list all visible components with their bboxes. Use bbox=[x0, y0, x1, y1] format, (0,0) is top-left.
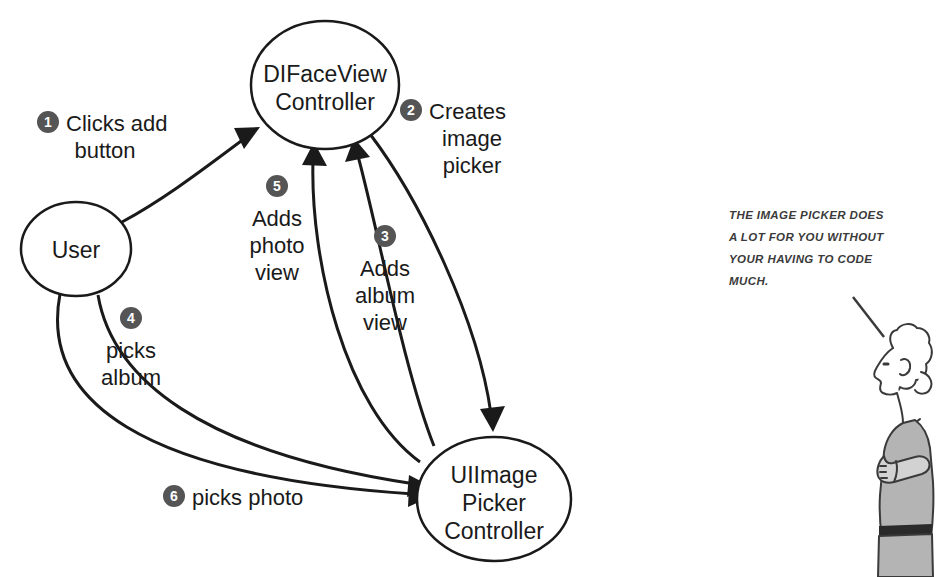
arrow-2-head bbox=[480, 406, 505, 432]
step-6: 6 picks photo bbox=[163, 485, 303, 510]
step-6-badge-number: 6 bbox=[170, 488, 178, 504]
diagram-canvas: User DIFaceView Controller UIImage Picke… bbox=[0, 0, 951, 577]
node-uiimagepickercontroller-label-line2: Picker bbox=[462, 490, 526, 516]
step-5-label-line3: view bbox=[255, 260, 299, 285]
caption-leader-line bbox=[853, 297, 884, 337]
caption-line-2: A LOT FOR YOU WITHOUT bbox=[728, 231, 884, 243]
step-4-label-line2: album bbox=[101, 365, 161, 390]
person-figure bbox=[874, 324, 933, 577]
figure-trousers bbox=[878, 534, 933, 577]
step-3-label-line2: album bbox=[355, 283, 415, 308]
step-6-label-line1: picks photo bbox=[192, 485, 303, 510]
step-5-badge-number: 5 bbox=[273, 178, 281, 194]
step-5-label-line1: Adds bbox=[252, 206, 302, 231]
caption-line-3: YOUR HAVING TO CODE bbox=[729, 253, 872, 265]
step-1-badge-number: 1 bbox=[44, 114, 52, 130]
step-1: 1 Clicks add button bbox=[37, 111, 167, 163]
step-1-label-line2: button bbox=[74, 138, 135, 163]
node-user[interactable]: User bbox=[21, 202, 131, 296]
step-3-label-line3: view bbox=[363, 310, 407, 335]
node-uiimagepickercontroller-label-line1: UIImage bbox=[451, 462, 538, 488]
step-2-badge-number: 2 bbox=[407, 102, 415, 118]
step-layer: 1 Clicks add button 2 Creates image pick… bbox=[37, 99, 506, 510]
node-user-label: User bbox=[52, 237, 101, 263]
step-2-label-line2: image bbox=[442, 126, 502, 151]
step-2-label-line3: picker bbox=[443, 153, 502, 178]
step-4: 4 picks album bbox=[101, 307, 161, 390]
caption-line-1: THE IMAGE PICKER DOES bbox=[729, 209, 884, 221]
node-difaceviewcontroller-label-line1: DIFaceView bbox=[263, 61, 387, 87]
node-difaceviewcontroller[interactable]: DIFaceView Controller bbox=[251, 21, 399, 149]
step-5-label-line2: photo bbox=[249, 233, 304, 258]
step-5: 5 Adds photo view bbox=[249, 175, 304, 285]
step-2: 2 Creates image picker bbox=[400, 99, 506, 178]
arrow-6-user-to-picker bbox=[58, 294, 414, 494]
step-4-label-line1: picks bbox=[106, 338, 156, 363]
step-1-label-line1: Clicks add bbox=[66, 111, 167, 136]
step-3: 3 Adds album view bbox=[355, 225, 415, 335]
step-4-badge-number: 4 bbox=[127, 310, 135, 326]
node-uiimagepickercontroller[interactable]: UIImage Picker Controller bbox=[417, 437, 571, 561]
node-difaceviewcontroller-label-line2: Controller bbox=[275, 89, 375, 115]
caption-line-4: MUCH. bbox=[729, 275, 769, 287]
sequence-diagram: User DIFaceView Controller UIImage Picke… bbox=[0, 0, 951, 577]
annotation-caption: THE IMAGE PICKER DOES A LOT FOR YOU WITH… bbox=[728, 209, 884, 287]
node-uiimagepickercontroller-label-line3: Controller bbox=[444, 518, 544, 544]
step-3-badge-number: 3 bbox=[381, 228, 389, 244]
step-2-label-line1: Creates bbox=[429, 99, 506, 124]
arrow-1-head bbox=[234, 127, 260, 149]
arrow-1-user-to-faceview bbox=[122, 133, 252, 222]
step-3-label-line1: Adds bbox=[360, 256, 410, 281]
